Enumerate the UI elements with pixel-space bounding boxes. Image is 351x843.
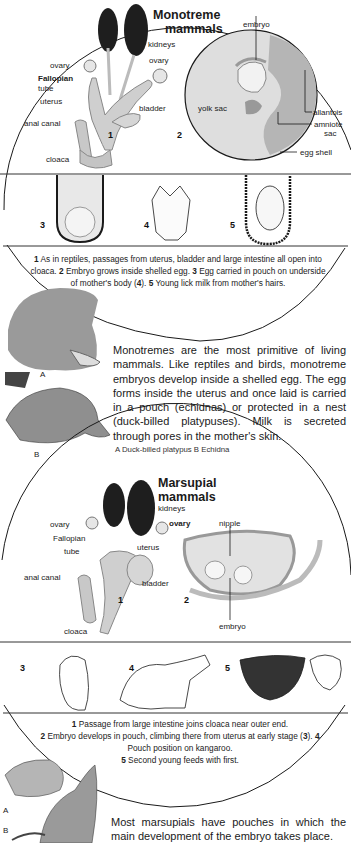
figure-number-2: 2: [177, 130, 182, 140]
monotreme-key: A Duck-billed platypus B Echidna: [115, 445, 229, 454]
label-kidneys: kidneys: [148, 40, 175, 49]
platypus-echidna-drawings: [5, 288, 110, 443]
label-allantois: allantois: [313, 108, 342, 117]
animal-letter-a: A: [3, 806, 8, 815]
label-anal-canal: anal canal: [24, 119, 60, 128]
marsupial-body-text: Most marsupials have pouches in which th…: [111, 815, 346, 843]
marsupial-organs-drawing: [78, 480, 168, 634]
monotreme-strip-drawings: [57, 175, 290, 244]
label-fallopian-line1: Fallopian: [38, 74, 73, 83]
figure-number-1: 1: [108, 130, 113, 140]
label-uterus: uterus: [137, 543, 159, 552]
label-ovary-left: ovary: [50, 520, 70, 529]
strip-number-4: 4: [129, 663, 134, 673]
label-amniote-line2: sac: [324, 129, 336, 138]
label-ovary-right: ovary: [169, 519, 190, 528]
strip-number-5: 5: [225, 663, 230, 673]
label-bladder: bladder: [142, 579, 169, 588]
label-fallopian-line2: tube: [64, 547, 80, 556]
strip-number-4: 4: [144, 220, 149, 230]
page: Monotreme mammals kidneys ovary ovary Fa…: [0, 0, 351, 843]
monotreme-caption: 1 As in reptiles, passages from uterus, …: [30, 253, 326, 289]
label-yolk-sac: yolk sac: [198, 104, 227, 113]
strip-number-3: 3: [20, 663, 25, 673]
label-nipple: nipple: [219, 519, 240, 528]
label-embryo: embryo: [219, 622, 246, 631]
label-ovary-left: ovary: [50, 61, 70, 70]
marsupial-title-line1: Marsupial: [158, 476, 216, 490]
animal-letter-a: A: [40, 370, 45, 379]
label-cloaca: cloaca: [64, 627, 87, 636]
label-anal-canal: anal canal: [24, 573, 60, 582]
possum-kangaroo-drawings: [5, 760, 97, 843]
label-bladder: bladder: [139, 104, 166, 113]
label-uterus: uterus: [40, 97, 62, 106]
label-kidneys: kidneys: [158, 504, 185, 513]
label-embryo: embryo: [243, 20, 270, 29]
marsupial-strip-drawings: [60, 655, 342, 710]
label-cloaca: cloaca: [46, 155, 69, 164]
strip-number-5: 5: [230, 220, 235, 230]
marsupial-title-line2: mammals: [158, 490, 216, 504]
marsupial-caption: 1 Passage from large intestine joins clo…: [40, 718, 320, 766]
monotreme-body-text: Monotremes are the most primitive of liv…: [113, 343, 346, 443]
monotreme-organs-drawing: [75, 4, 167, 168]
figure-number-1: 1: [118, 595, 123, 605]
label-amniote-line1: amniote: [314, 120, 342, 129]
label-fallopian-line1: Fallopian: [53, 534, 85, 543]
label-ovary-right: ovary: [149, 56, 169, 65]
strip-number-3: 3: [40, 220, 45, 230]
monotreme-title-line1: Monotreme: [153, 8, 220, 22]
monotreme-egg-drawing: [185, 16, 317, 160]
animal-letter-b: B: [34, 450, 39, 459]
figure-number-2: 2: [184, 595, 189, 605]
animal-letter-b: B: [3, 826, 8, 835]
marsupial-pouch-drawing: [184, 526, 320, 620]
label-egg-shell: egg shell: [300, 148, 332, 157]
monotreme-title-line2: mammals: [165, 22, 223, 36]
label-fallopian-line2: tube: [38, 84, 54, 93]
